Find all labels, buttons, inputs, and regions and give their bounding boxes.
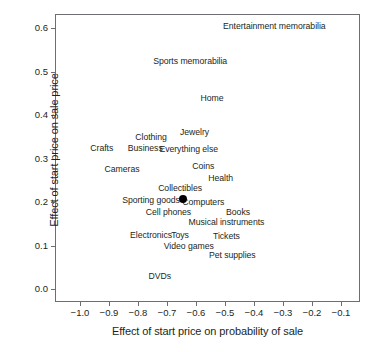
x-tick	[109, 302, 110, 306]
data-point-label: Jewelry	[180, 128, 209, 137]
x-tick	[254, 302, 255, 306]
y-tick-label: 0.1	[16, 240, 48, 251]
y-tick-label: 0.4	[16, 109, 48, 120]
data-point-label: Collectibles	[158, 184, 202, 193]
data-point-label: Entertainment memorabilia	[223, 21, 326, 30]
y-tick-label: 0.3	[16, 153, 48, 164]
data-point-label: Cell phones	[146, 207, 191, 216]
y-tick-label: 0.6	[16, 22, 48, 33]
x-tick	[80, 302, 81, 306]
data-point-marker	[179, 195, 187, 203]
x-tick	[167, 302, 168, 306]
data-point-label: Coins	[192, 162, 214, 171]
x-tick-label: −0.1	[321, 307, 361, 318]
y-tick-label: 0.0	[16, 283, 48, 294]
x-tick	[138, 302, 139, 306]
data-point-label: Health	[208, 174, 233, 183]
y-tick-label: 0.2	[16, 196, 48, 207]
data-point-label: Computers	[182, 198, 224, 207]
data-point-label: DVDs	[149, 272, 172, 281]
x-tick	[196, 302, 197, 306]
data-point-label: Crafts	[90, 143, 113, 152]
x-tick	[283, 302, 284, 306]
x-tick	[341, 302, 342, 306]
data-point-label: Video games	[164, 241, 214, 250]
data-point-label: Cameras	[105, 165, 140, 174]
x-axis-title: Effect of start price on probability of …	[55, 325, 360, 337]
data-point-label: Sporting goods	[122, 195, 180, 204]
data-point-label: Pet supplies	[209, 251, 256, 260]
data-point-label: Electronics	[130, 230, 172, 239]
y-tick-label: 0.5	[16, 66, 48, 77]
x-tick	[225, 302, 226, 306]
data-point-label: Musical instruments	[189, 217, 265, 226]
data-point-label: Business	[128, 143, 163, 152]
data-point-label: Books	[226, 207, 250, 216]
y-axis-title: Effect of start price on sale price	[48, 6, 60, 294]
scatter-plot-figure: −1.0−0.9−0.8−0.7−0.6−0.5−0.4−0.3−0.2−0.1…	[0, 0, 373, 352]
data-point-label: Toys	[171, 230, 189, 239]
data-point-label: Sports memorabilia	[153, 56, 227, 65]
data-point-label: Everything else	[159, 145, 218, 154]
data-point-label: Tickets	[213, 232, 240, 241]
x-tick	[312, 302, 313, 306]
data-point-label: Clothing	[135, 132, 166, 141]
data-point-label: Home	[200, 93, 223, 102]
